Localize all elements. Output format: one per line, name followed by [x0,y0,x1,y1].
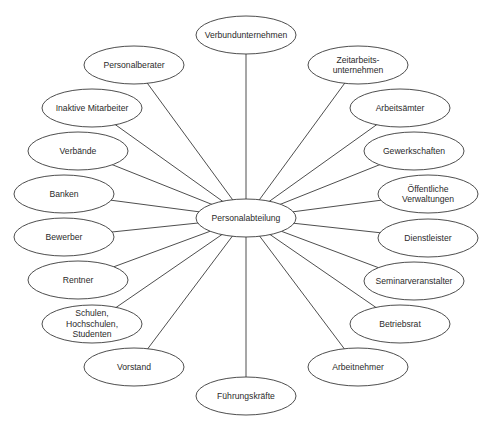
node-label: Arbeitnehmer [332,362,384,372]
node-banken: Banken [14,175,114,213]
edge-personalberater [134,65,246,218]
node-verbaende: Verbände [28,132,128,170]
node-label: Verwaltungen [402,194,454,204]
node-label: Gewerkschaften [383,146,445,156]
node-label: Bewerber [46,232,83,242]
node-personalabteilung: Personalabteilung [196,199,296,237]
node-fuehrungskraefte: Führungskräfte [196,377,296,415]
node-label: Inaktive Mitarbeiter [56,103,129,113]
node-label: Studenten [72,329,111,339]
node-label: Vorstand [117,362,151,372]
node-label: Hochschulen, [66,319,118,329]
node-label: unternehmen [333,65,384,75]
node-dienstleister: Dienstleister [378,219,478,257]
node-rentner: Rentner [28,261,128,299]
node-label: Banken [49,189,78,199]
node-personalberater: Personalberater [84,46,184,84]
node-vorstand: Vorstand [84,348,184,386]
edge-arbeitnehmer [246,218,358,367]
node-label: Verbundunternehmen [205,30,288,40]
node-arbeitnehmer: Arbeitnehmer [308,348,408,386]
node-label: Verbände [60,146,97,156]
node-label: Führungskräfte [217,391,275,401]
node-gewerkschaften: Gewerkschaften [364,132,464,170]
node-label: Schulen, [75,308,108,318]
node-label: Zeitarbeits- [337,55,380,65]
node-bewerber: Bewerber [14,218,114,256]
edge-vorstand [134,218,246,367]
stakeholder-diagram: VerbundunternehmenZeitarbeits-unternehme… [0,0,489,427]
center-node-personalabteilung: Personalabteilung [196,199,296,237]
node-schulen: Schulen,Hochschulen,Studenten [42,305,142,343]
node-arbeitsaemter: Arbeitsämter [350,89,450,127]
node-label: Seminarveranstalter [376,276,453,286]
node-label: Öffentliche [408,184,449,194]
node-label: Personalberater [103,60,164,70]
node-betriebsrat: Betriebsrat [350,305,450,343]
node-label: Arbeitsämter [376,103,425,113]
node-label: Personalabteilung [212,213,281,223]
edge-zeitarbeitsunternehmen [246,65,358,218]
node-label: Rentner [63,275,94,285]
node-seminarveranstalter: Seminarveranstalter [364,262,464,300]
node-label: Dienstleister [404,233,451,243]
node-inaktive-mitarbeiter: Inaktive Mitarbeiter [42,89,142,127]
node-zeitarbeitsunternehmen: Zeitarbeits-unternehmen [308,46,408,84]
node-oeffentliche-verwaltungen: ÖffentlicheVerwaltungen [378,175,478,213]
node-verbundunternehmen: Verbundunternehmen [196,16,296,54]
node-label: Betriebsrat [379,319,421,329]
